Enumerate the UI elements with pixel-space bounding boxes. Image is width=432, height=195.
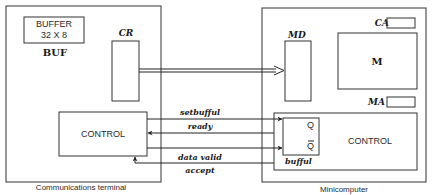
setbufful-label: setbufful xyxy=(180,107,220,117)
ready-label: ready xyxy=(188,121,214,131)
cr-label: CR xyxy=(119,28,134,38)
memory-label: M xyxy=(371,56,382,67)
minicomputer-caption: Minicomputer xyxy=(320,185,368,194)
diagram-canvas: BUFFER 32 X 8 BUF CR CONTROL Communicati… xyxy=(0,0,432,195)
terminal-control-label: CONTROL xyxy=(81,129,125,139)
q-output: Q xyxy=(307,120,314,130)
data-valid-label: data valid xyxy=(178,152,222,162)
minicomputer-control-label: CONTROL xyxy=(348,136,392,146)
ma-register xyxy=(387,97,415,107)
ca-register xyxy=(387,18,415,28)
ma-label: MA xyxy=(367,97,385,107)
bufful-label: bufful xyxy=(285,156,312,166)
accept-label: accept xyxy=(185,165,215,175)
qbar-output: Q xyxy=(307,141,314,151)
buffer-label-line1: BUFFER xyxy=(36,19,73,29)
md-label: MD xyxy=(287,30,306,40)
cr-register xyxy=(112,41,139,101)
md-register xyxy=(285,41,311,101)
buf-label: BUF xyxy=(43,47,67,58)
buffer-label-line2: 32 X 8 xyxy=(41,30,67,40)
terminal-caption: Communications terminal xyxy=(36,183,126,192)
